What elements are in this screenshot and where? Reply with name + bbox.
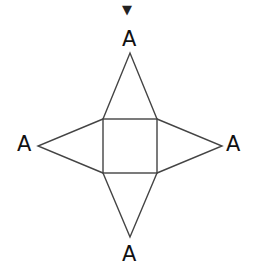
label-top-apex: A: [122, 29, 136, 50]
bottom-triangle: [103, 173, 157, 237]
label-left-apex: A: [17, 134, 31, 155]
base-square: [103, 119, 157, 173]
diagram-canvas: ▼ A A A A: [0, 0, 254, 279]
top-triangle: [103, 53, 157, 119]
right-triangle: [157, 119, 222, 173]
left-triangle: [38, 119, 103, 173]
label-right-apex: A: [226, 134, 240, 155]
label-bottom-apex: A: [122, 244, 136, 265]
down-triangle-marker-icon: ▼: [122, 3, 132, 16]
